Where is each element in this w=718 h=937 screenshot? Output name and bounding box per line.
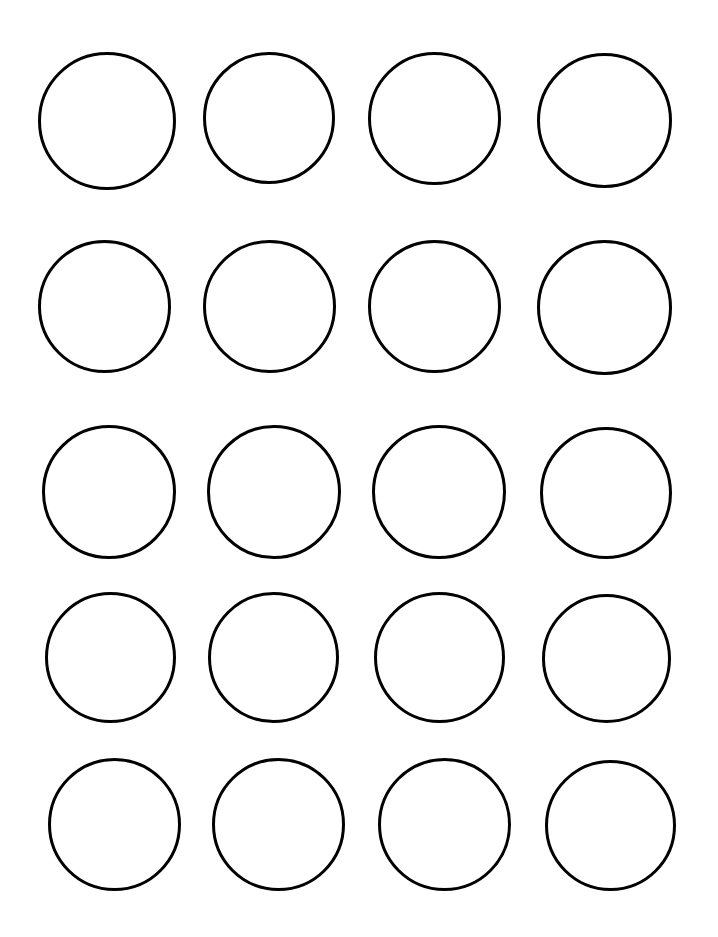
circle-outline[interactable]: [537, 53, 672, 188]
circle-outline[interactable]: [207, 425, 341, 559]
circle-outline[interactable]: [208, 592, 339, 723]
circle-outline[interactable]: [378, 758, 511, 891]
circle-outline[interactable]: [540, 427, 672, 559]
circle-outline[interactable]: [38, 240, 171, 373]
circle-outline[interactable]: [372, 425, 506, 559]
circle-outline[interactable]: [368, 240, 501, 373]
circle-grid: [0, 0, 718, 937]
circle-outline[interactable]: [537, 240, 672, 375]
circle-outline[interactable]: [542, 594, 671, 723]
circle-outline[interactable]: [38, 52, 176, 190]
circle-outline[interactable]: [42, 425, 176, 559]
template-sheet: [0, 0, 718, 937]
circle-outline[interactable]: [212, 758, 345, 891]
circle-outline[interactable]: [545, 760, 676, 891]
circle-outline[interactable]: [48, 758, 181, 891]
circle-outline[interactable]: [45, 592, 176, 723]
circle-outline[interactable]: [203, 240, 336, 373]
circle-outline[interactable]: [203, 52, 335, 184]
circle-outline[interactable]: [374, 592, 505, 723]
circle-outline[interactable]: [368, 52, 501, 185]
